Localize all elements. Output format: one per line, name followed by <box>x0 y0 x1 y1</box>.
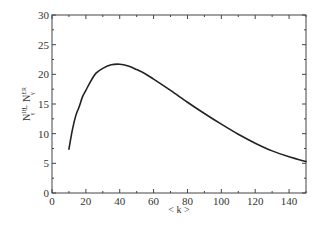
line-chart: 020406080100120140 051015202530 < k > NI… <box>0 0 321 229</box>
y-tick-label: 10 <box>38 128 50 140</box>
y-tick-label: 0 <box>44 187 50 199</box>
svg-text:NIHγ − NERγ: NIHγ − NERγ <box>21 87 35 121</box>
x-axis-label: < k > <box>168 204 190 215</box>
y-axis-label: NIHγ − NERγ <box>21 87 35 121</box>
axis-ticks <box>52 15 306 193</box>
data-line <box>69 64 306 161</box>
x-tick-label: 60 <box>148 195 160 207</box>
x-tick-label: 40 <box>114 195 126 207</box>
x-tick-label: 100 <box>213 195 230 207</box>
x-tick-label: 140 <box>281 195 298 207</box>
x-tick-label: 120 <box>247 195 264 207</box>
y-tick-label: 30 <box>38 9 50 21</box>
x-tick-label: 0 <box>49 195 55 207</box>
x-tick-label: 20 <box>80 195 92 207</box>
y-tick-label: 25 <box>38 39 50 51</box>
plot-frame <box>52 15 306 193</box>
y-tick-label: 20 <box>38 68 50 80</box>
y-tick-label: 15 <box>38 98 50 110</box>
y-tick-labels: 051015202530 <box>38 9 50 199</box>
y-tick-label: 5 <box>44 157 50 169</box>
